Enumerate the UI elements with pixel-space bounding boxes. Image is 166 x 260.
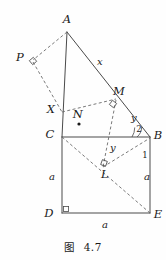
- caption-label: 图: [64, 241, 75, 253]
- segment-y-upper-label: y: [131, 113, 137, 123]
- side-a-bottom-label: a: [102, 220, 108, 230]
- point-label-D: D: [44, 208, 53, 220]
- point-label-N: N: [73, 109, 83, 121]
- point-label-M: M: [113, 86, 125, 98]
- point-label-L: L: [101, 169, 109, 181]
- angle-1-label: 1: [142, 151, 148, 160]
- point-label-X: X: [47, 104, 55, 116]
- angle-arc-1: [132, 127, 135, 137]
- caption-number: 4.7: [84, 241, 102, 253]
- segment-X-M: [62, 99, 116, 112]
- figure-caption: 图4.7: [0, 239, 166, 254]
- point-label-B: B: [154, 130, 163, 142]
- segment-A-P: [33, 32, 67, 60]
- side-a-right-label: a: [144, 172, 150, 182]
- right-angle-at-D: [63, 206, 68, 211]
- segment-A-B: [67, 32, 150, 137]
- right-angle-marker-group: [29, 57, 116, 211]
- segment-x-label: x: [97, 57, 103, 67]
- point-N-dot: [77, 122, 80, 125]
- segment-y-lower-label: y: [110, 143, 116, 153]
- point-label-C: C: [46, 129, 55, 141]
- right-angle-at-P: [29, 57, 36, 64]
- segment-A-C: [62, 32, 67, 137]
- segment-M-L: [103, 100, 116, 167]
- side-a-left-label: a: [49, 172, 55, 182]
- point-marker-group: [77, 122, 80, 125]
- point-label-P: P: [16, 52, 24, 64]
- point-label-E: E: [154, 209, 163, 221]
- figure-4-7: APXCNMBLDExyyaaa21 图4.7: [0, 0, 166, 260]
- point-label-A: A: [63, 14, 72, 26]
- angle-2-label: 2: [136, 125, 142, 134]
